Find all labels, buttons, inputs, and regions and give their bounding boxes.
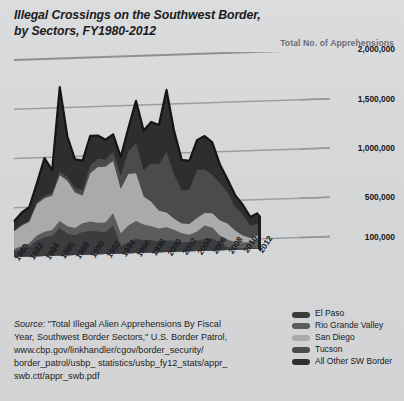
x-axis-tick-labels: 1980198219841986198819901992199419961998…	[0, 253, 404, 299]
source-note: Source: "Total Illegal Alien Apprehensio…	[14, 318, 288, 383]
source-line-3: www.cbp.gov/linkhandler/cgov/border_secu…	[14, 344, 288, 357]
legend-item: Tucson	[292, 344, 400, 354]
legend-item-label: El Paso	[315, 308, 344, 318]
gridline	[14, 52, 330, 60]
tick-connector	[300, 148, 330, 149]
tick-connector	[300, 197, 330, 198]
legend-color-swatch	[292, 347, 310, 353]
tick-connector-lines	[300, 52, 330, 238]
chart-legend: El PasoRio Grande ValleySan DiegoTucsonA…	[292, 308, 400, 368]
source-label: Source:	[14, 319, 45, 329]
stacked-area-chart	[0, 52, 404, 267]
legend-color-swatch	[292, 312, 310, 318]
title-line-1: Illegal Crossings on the Southwest Borde…	[14, 8, 261, 22]
legend-item-label: Rio Grande Valley	[315, 320, 383, 330]
page-title: Illegal Crossings on the Southwest Borde…	[14, 8, 294, 39]
legend-color-swatch	[292, 335, 310, 341]
legend-item-label: San Diego	[315, 332, 355, 342]
source-line-2: Year, Southwest Border Sectors," U.S. Bo…	[14, 331, 288, 344]
legend-item: All Other SW Border	[292, 356, 400, 366]
legend-item-label: Tucson	[315, 344, 343, 354]
legend-color-swatch	[292, 323, 310, 329]
figure-page: Illegal Crossings on the Southwest Borde…	[0, 0, 404, 401]
y-axis-tick-label: 100,000	[365, 232, 395, 242]
tick-connector	[300, 237, 330, 238]
legend-item-label: All Other SW Border	[315, 356, 392, 366]
legend-item: Rio Grande Valley	[292, 320, 400, 330]
tick-connector	[300, 99, 330, 100]
y-axis-tick-label: 1,500,000	[358, 94, 395, 104]
y-axis-tick-label: 1,000,000	[358, 143, 395, 153]
legend-item: El Paso	[292, 308, 400, 318]
legend-color-swatch	[292, 359, 310, 365]
source-line-1: "Total Illegal Alien Apprehensions By Fi…	[45, 319, 221, 329]
legend-item: San Diego	[292, 332, 400, 342]
area-series-group	[14, 87, 261, 257]
source-line-5: swb.ctt/appr_swb.pdf	[14, 370, 288, 383]
y-axis-tick-label: 2,000,000	[358, 44, 395, 54]
source-line-4: border_patrol/usbp_ statistics/usbp_fy12…	[14, 357, 288, 370]
chart-plot-area: 2,000,0001,500,0001,000,000500,000100,00…	[0, 52, 404, 267]
y-axis-tick-label: 500,000	[365, 192, 395, 202]
title-line-2: by Sectors, FY1980-2012	[14, 24, 294, 40]
